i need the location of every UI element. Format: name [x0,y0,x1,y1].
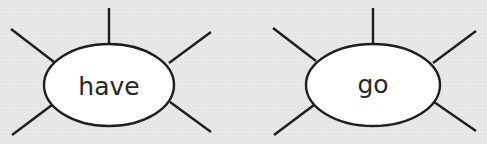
spoke-lower-left [12,105,52,135]
spoke-upper-left [11,29,54,62]
word-label-have: have [78,74,139,99]
diagram-canvas: have go [0,0,487,144]
word-label-go: go [357,72,388,97]
word-web-diagram [0,0,487,144]
spoke-upper-right [169,32,211,63]
spoke-lower-right [434,102,476,131]
spoke-upper-right [433,31,476,63]
spoke-lower-right [170,102,211,132]
spoke-lower-left [274,105,314,135]
spoke-upper-left [273,28,316,61]
